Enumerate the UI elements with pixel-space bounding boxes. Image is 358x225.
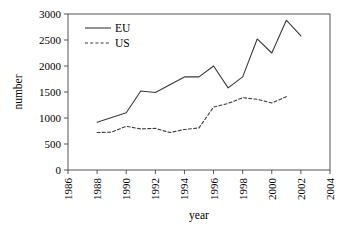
legend-label-eu: EU [115,22,131,34]
y-axis-title: number [12,74,24,109]
x-tick-label: 2002 [295,178,307,200]
y-tick-label: 2000 [39,60,62,72]
legend-label-us: US [115,37,130,49]
x-tick-label: 1996 [208,178,220,201]
plot-border [68,14,330,170]
x-tick-label: 1990 [120,178,132,201]
x-tick-label: 1988 [91,178,103,201]
x-axis-ticks: 1986198819901992199419961998200020022004 [62,170,336,200]
series-line-eu [97,20,301,122]
y-tick-label: 2500 [39,34,62,46]
chart-figure: 050010001500200025003000 198619881990199… [0,0,358,225]
y-axis-ticks: 050010001500200025003000 [39,8,68,176]
x-tick-label: 1986 [62,178,74,201]
series-line-us [97,97,286,133]
x-tick-label: 1994 [178,178,190,201]
x-tick-label: 1998 [237,178,249,201]
plot-frame [68,14,330,170]
y-tick-label: 1000 [39,112,62,124]
y-tick-label: 500 [45,138,62,150]
chart-legend: EUUS [85,22,131,49]
y-tick-label: 3000 [39,8,62,20]
line-chart: 050010001500200025003000 198619881990199… [0,0,358,225]
y-tick-label: 1500 [39,86,62,98]
x-tick-label: 2000 [266,178,278,201]
y-tick-label: 0 [56,164,62,176]
x-tick-label: 2004 [324,178,336,201]
x-tick-label: 1992 [149,178,161,200]
x-axis-title: year [189,209,209,222]
